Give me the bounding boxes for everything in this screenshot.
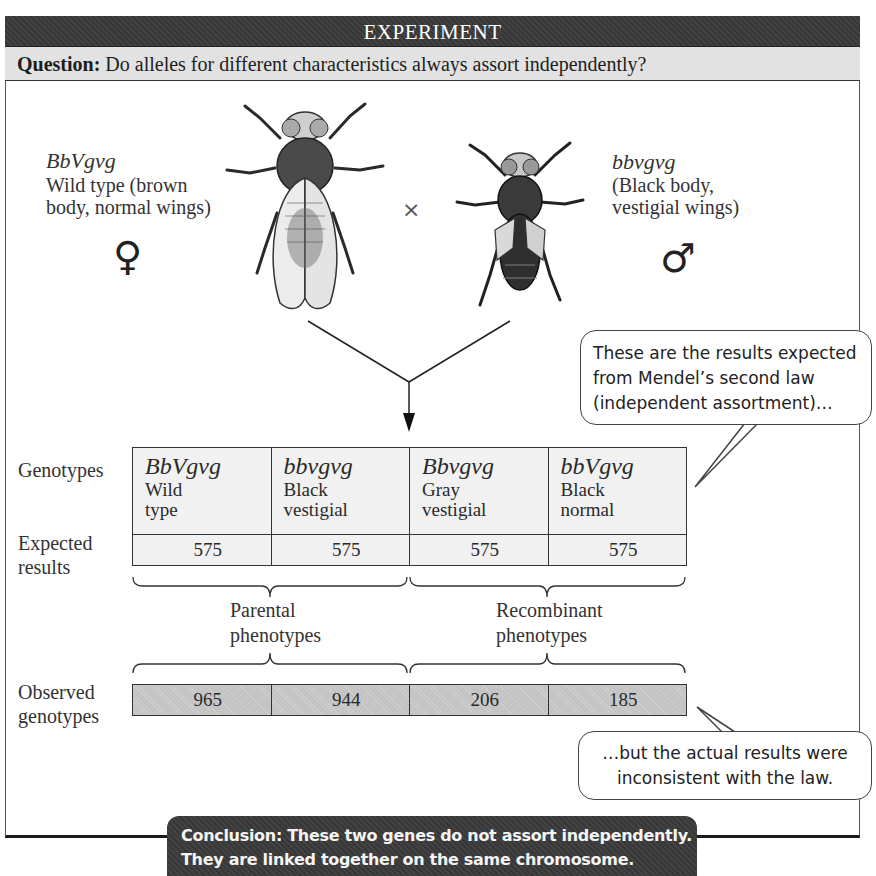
recombinant-phenotypes-label: Recombinant phenotypes: [496, 598, 603, 648]
observed-callout-line-2: inconsistent with the law.: [579, 766, 871, 791]
row-label-genotypes: Genotypes: [18, 458, 104, 482]
expected-value: 575: [133, 535, 272, 566]
phenotype-text-2: normal: [561, 500, 687, 520]
recombinant-label-2: phenotypes: [496, 623, 603, 648]
expected-callout-line-2: from Mendel’s second law: [593, 366, 871, 391]
phenotype-text-1: Black: [561, 480, 687, 500]
recombinant-label-1: Recombinant: [496, 598, 603, 623]
row-label-observed-1: Observed: [18, 680, 99, 704]
row-label-expected-2: results: [18, 555, 92, 579]
phenotype-text-1: Wild: [145, 480, 271, 500]
row-label-observed: Observed genotypes: [18, 680, 99, 728]
observed-callout-line-1: …but the actual results were: [579, 741, 871, 766]
genotype-cell: BbVgvg Wild type: [133, 448, 272, 535]
observed-value: 206: [410, 685, 549, 716]
phenotype-text-2: type: [145, 500, 271, 520]
genotype-cell: Bbvgvg Gray vestigial: [410, 448, 549, 535]
parental-label-1: Parental: [230, 598, 321, 623]
genotype-text: Bbvgvg: [422, 448, 548, 480]
observed-value: 944: [271, 685, 410, 716]
row-label-expected-1: Expected: [18, 531, 92, 555]
expected-callout-line-3: (independent assortment)…: [593, 391, 871, 416]
expected-value: 575: [271, 535, 410, 566]
row-label-expected: Expected results: [18, 531, 92, 579]
phenotype-text-2: vestigial: [422, 500, 548, 520]
parental-label-2: phenotypes: [230, 623, 321, 648]
observed-value: 185: [548, 685, 687, 716]
expected-value: 575: [548, 535, 687, 566]
conclusion-line-2: They are linked together on the same chr…: [181, 848, 692, 872]
genotype-cell: bbvgvg Black vestigial: [271, 448, 410, 535]
genotype-text: BbVgvg: [145, 448, 271, 480]
observed-row: 965 944 206 185: [133, 685, 687, 716]
phenotype-text-2: vestigial: [284, 500, 410, 520]
phenotype-text-1: Black: [284, 480, 410, 500]
observed-value: 965: [133, 685, 272, 716]
observed-results-table: 965 944 206 185: [132, 684, 687, 716]
conclusion-box: Conclusion: These two genes do not assor…: [167, 816, 697, 876]
expected-value: 575: [410, 535, 549, 566]
expected-row: 575 575 575 575: [133, 535, 687, 566]
expected-callout-line-1: These are the results expected: [593, 341, 871, 366]
expected-callout: These are the results expected from Mend…: [580, 330, 872, 425]
conclusion-line-1: Conclusion: These two genes do not assor…: [181, 824, 692, 848]
genotype-cell: bbVgvg Black normal: [548, 448, 687, 535]
phenotype-text-1: Gray: [422, 480, 548, 500]
genotype-row: BbVgvg Wild type bbvgvg Black vestigial …: [133, 448, 687, 535]
expected-results-table: BbVgvg Wild type bbvgvg Black vestigial …: [132, 447, 687, 566]
genotype-text: bbVgvg: [561, 448, 687, 480]
row-label-observed-2: genotypes: [18, 704, 99, 728]
parental-phenotypes-label: Parental phenotypes: [230, 598, 321, 648]
conclusion-text: Conclusion: These two genes do not assor…: [181, 824, 692, 872]
genotype-text: bbvgvg: [284, 448, 410, 480]
observed-callout: …but the actual results were inconsisten…: [578, 731, 872, 800]
